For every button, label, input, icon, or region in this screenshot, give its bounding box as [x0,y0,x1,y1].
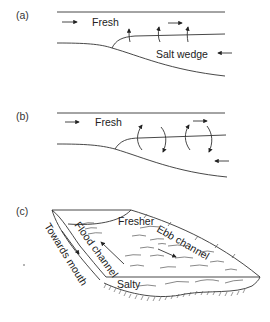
panel-a-label: (a) [16,9,29,21]
salt-wedge-label: Salt wedge [156,48,208,60]
estuary-diagram: (a) Fresh Salt wedge (b) Fresh (c) [0,0,270,322]
estuary-bed-line [57,144,227,177]
panel-b-label: (b) [16,110,29,122]
salty-label: Salty [117,278,141,290]
mixing-arrow-icon [185,125,190,150]
panel-b: (b) Fresh [16,110,229,177]
mixing-arrow-icon [161,127,166,152]
fresher-label: Fresher [118,215,155,227]
mixing-arrow-icon [207,126,212,152]
fresh-label: Fresh [95,116,122,128]
panel-c-label: (c) [16,205,28,217]
fresh-label: Fresh [92,16,119,28]
entrainment-arrow-icon [129,29,130,42]
mixing-interface [115,135,226,149]
mixing-arrow-icon [138,125,143,150]
entrainment-arrow-icon [158,27,160,42]
stray-dot [23,264,25,266]
panel-a: (a) Fresh Salt wedge [16,9,232,76]
panel-c: (c) [16,205,260,301]
ebb-flow-arrow-icon [158,249,176,257]
